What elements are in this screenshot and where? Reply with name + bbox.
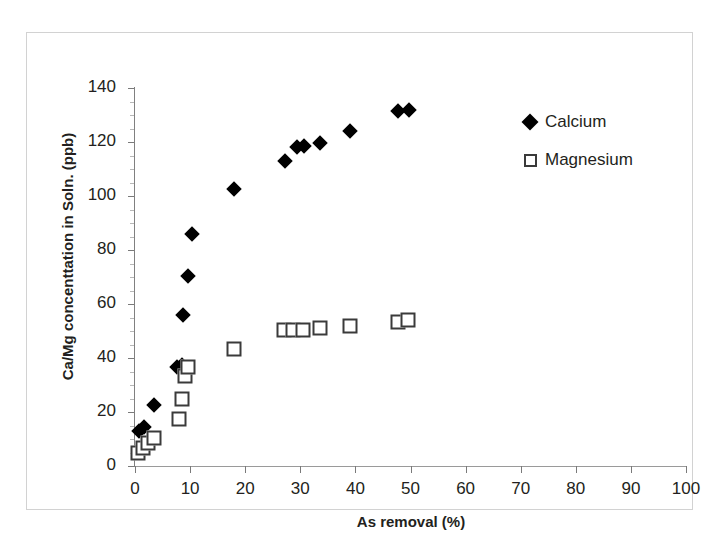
y-tick-140 [128, 88, 134, 89]
square-marker-icon [519, 154, 541, 167]
y-minor-tick [130, 264, 134, 265]
legend-item-calcium[interactable]: Calcium [519, 103, 689, 141]
x-tick-label-20: 20 [220, 479, 270, 499]
y-minor-tick [130, 345, 134, 346]
x-tick-label-30: 30 [275, 479, 325, 499]
x-tick-100 [686, 466, 687, 473]
y-minor-tick [130, 277, 134, 278]
x-tick-label-70: 70 [496, 479, 546, 499]
y-minor-tick [130, 399, 134, 400]
y-minor-tick [130, 318, 134, 319]
y-minor-tick [130, 372, 134, 373]
x-axis-title: As removal (%) [135, 513, 687, 530]
x-tick-label-60: 60 [441, 479, 491, 499]
y-axis-title: Ca/Mg concenttation in Soln. (ppb) [59, 57, 76, 457]
data-point-magnesium [342, 318, 357, 333]
y-tick-100 [128, 196, 134, 197]
legend-label: Magnesium [545, 150, 633, 170]
x-tick-50 [411, 466, 412, 473]
y-tick-80 [128, 250, 134, 251]
y-tick-0 [128, 466, 134, 467]
x-tick-90 [631, 466, 632, 473]
x-tick-30 [300, 466, 301, 473]
x-tick-70 [521, 466, 522, 473]
data-point-magnesium [295, 322, 310, 337]
y-minor-tick [130, 169, 134, 170]
legend-item-magnesium[interactable]: Magnesium [519, 141, 689, 179]
y-tick-120 [128, 142, 134, 143]
y-tick-60 [128, 304, 134, 305]
x-tick-label-90: 90 [606, 479, 656, 499]
y-minor-tick [130, 210, 134, 211]
data-point-magnesium [313, 321, 328, 336]
chart-legend: CalciumMagnesium [519, 103, 689, 179]
x-tick-0 [135, 466, 136, 473]
data-point-magnesium [227, 341, 242, 356]
data-point-magnesium [146, 430, 161, 445]
data-point-magnesium [401, 313, 416, 328]
y-minor-tick [130, 237, 134, 238]
y-minor-tick [130, 291, 134, 292]
y-minor-tick [130, 439, 134, 440]
diamond-marker-icon [519, 116, 541, 128]
x-tick-40 [355, 466, 356, 473]
x-tick-label-80: 80 [551, 479, 601, 499]
x-tick-label-100: 100 [661, 479, 711, 499]
data-point-magnesium [172, 411, 187, 426]
y-minor-tick [130, 183, 134, 184]
legend-label: Calcium [545, 112, 606, 132]
data-point-magnesium [175, 391, 190, 406]
x-tick-label-0: 0 [110, 479, 160, 499]
y-minor-tick [130, 331, 134, 332]
x-tick-80 [576, 466, 577, 473]
y-minor-tick [130, 102, 134, 103]
x-tick-label-40: 40 [330, 479, 380, 499]
y-minor-tick [130, 115, 134, 116]
y-tick-40 [128, 358, 134, 359]
x-tick-20 [245, 466, 246, 473]
y-minor-tick [130, 223, 134, 224]
x-tick-60 [466, 466, 467, 473]
y-minor-tick [130, 426, 134, 427]
y-tick-20 [128, 412, 134, 413]
y-tick-label-0: 0 [52, 455, 116, 475]
data-point-magnesium [180, 360, 195, 375]
x-tick-10 [190, 466, 191, 473]
y-minor-tick [130, 129, 134, 130]
y-minor-tick [130, 385, 134, 386]
x-tick-label-10: 10 [165, 479, 215, 499]
chart-frame: 020406080100120140 010203040506070809010… [26, 32, 693, 510]
x-tick-label-50: 50 [386, 479, 436, 499]
y-minor-tick [130, 156, 134, 157]
